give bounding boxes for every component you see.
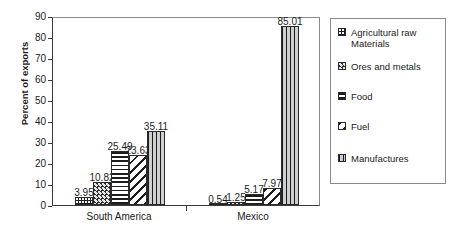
y-tick-label: 60 — [20, 75, 46, 85]
legend-swatch — [338, 92, 346, 100]
chart-legend: Agricultural raw MaterialsOres and metal… — [330, 18, 446, 184]
y-tick-label: 90 — [20, 12, 46, 22]
y-tick-label: 70 — [20, 54, 46, 64]
legend-item-label: Agricultural raw Materials — [351, 27, 416, 49]
y-tick-label: 20 — [20, 159, 46, 169]
bar — [129, 155, 147, 205]
bar-value-label: 35.11 — [140, 121, 172, 132]
bar — [245, 194, 263, 205]
legend-item-label: Manufactures — [351, 153, 409, 164]
y-tick-label: 40 — [20, 117, 46, 127]
plot-area: 3.9510.8225.4923.6335.110.541.255.177.97… — [52, 17, 320, 206]
y-tick-label: 50 — [20, 96, 46, 106]
legend-item-label: Food — [351, 91, 373, 102]
bar-value-label: 85.01 — [274, 16, 306, 27]
legend-item[interactable]: Agricultural raw Materials — [338, 27, 416, 49]
bar — [111, 151, 129, 205]
y-tick-mark — [48, 206, 52, 207]
x-tick-mark — [186, 206, 187, 211]
legend-item-label: Ores and metals — [351, 61, 421, 72]
legend-item[interactable]: Manufactures — [338, 153, 409, 164]
x-group-label: South America — [59, 211, 179, 222]
bar — [147, 131, 165, 205]
bar — [263, 188, 281, 205]
y-tick-label: 0 — [20, 201, 46, 211]
legend-item[interactable]: Ores and metals — [338, 61, 421, 72]
bar — [93, 182, 111, 205]
y-tick-label: 80 — [20, 33, 46, 43]
legend-item[interactable]: Food — [338, 91, 373, 102]
legend-swatch — [338, 154, 346, 162]
legend-item-label: Fuel — [351, 121, 369, 132]
bar — [281, 26, 299, 205]
legend-swatch — [338, 28, 346, 36]
legend-swatch — [338, 62, 346, 70]
legend-swatch — [338, 122, 346, 130]
chart-screenshot: Percent of exports 0102030405060708090 3… — [0, 0, 451, 239]
y-tick-label: 30 — [20, 138, 46, 148]
legend-item[interactable]: Fuel — [338, 121, 369, 132]
y-tick-label: 10 — [20, 180, 46, 190]
bar — [75, 197, 93, 205]
x-group-label: Mexico — [193, 211, 313, 222]
